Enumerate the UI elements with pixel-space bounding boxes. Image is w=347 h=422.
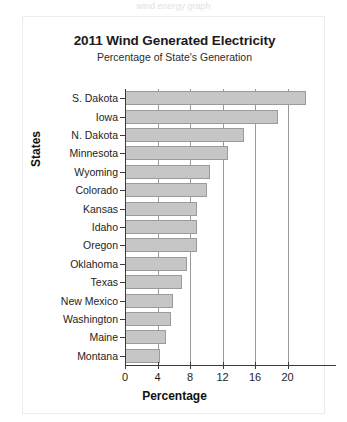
bar bbox=[125, 110, 278, 124]
bar bbox=[125, 220, 197, 234]
chart-title: 2011 Wind Generated Electricity bbox=[23, 33, 326, 48]
bar bbox=[125, 183, 207, 197]
chart-subtitle: Percentage of State's Generation bbox=[23, 51, 326, 63]
bar bbox=[125, 202, 197, 216]
x-axis-tick-label: 8 bbox=[187, 371, 193, 383]
x-axis-tick bbox=[158, 362, 159, 369]
bar bbox=[125, 257, 187, 271]
y-axis-title: States bbox=[29, 131, 43, 167]
bar bbox=[125, 275, 182, 289]
y-axis-tick-label: Colorado bbox=[75, 184, 118, 196]
x-axis-tick bbox=[288, 362, 289, 369]
bar bbox=[125, 238, 197, 252]
y-axis-tick-label: Montana bbox=[77, 350, 118, 362]
x-axis-tick-label: 0 bbox=[122, 371, 128, 383]
y-axis-tick-label: Wyoming bbox=[74, 166, 118, 178]
bar bbox=[125, 165, 210, 179]
chart-figure: 2011 Wind Generated Electricity Percenta… bbox=[22, 16, 325, 414]
y-axis-tick-label: Oregon bbox=[83, 239, 118, 251]
bar bbox=[125, 349, 160, 363]
cut-off-header-text: wind energy graph bbox=[0, 0, 347, 12]
bar bbox=[125, 91, 306, 105]
y-axis-tick-label: Idaho bbox=[92, 221, 118, 233]
x-axis-tick bbox=[125, 362, 126, 369]
x-axis-tick bbox=[255, 362, 256, 369]
y-axis-tick-label: S. Dakota bbox=[72, 92, 118, 104]
bar bbox=[125, 128, 244, 142]
bar bbox=[125, 146, 228, 160]
y-axis-tick-label: Washington bbox=[63, 313, 118, 325]
y-axis-tick-label: Minnesota bbox=[70, 147, 118, 159]
x-axis-title: Percentage bbox=[23, 389, 326, 403]
bar bbox=[125, 312, 171, 326]
x-axis-tick bbox=[190, 362, 191, 369]
bar bbox=[125, 330, 166, 344]
y-axis-tick-label: New Mexico bbox=[61, 295, 118, 307]
y-axis-tick-label: Oklahoma bbox=[70, 258, 118, 270]
x-axis-tick-label: 16 bbox=[249, 371, 261, 383]
x-axis-tick-label: 20 bbox=[281, 371, 293, 383]
y-axis-tick-label: Texas bbox=[91, 276, 118, 288]
bar-series: S. DakotaIowaN. DakotaMinnesotaWyomingCo… bbox=[125, 89, 316, 365]
y-axis-tick-label: N. Dakota bbox=[71, 129, 118, 141]
y-axis-tick-label: Iowa bbox=[96, 111, 118, 123]
bar bbox=[125, 294, 173, 308]
plot-area: S. DakotaIowaN. DakotaMinnesotaWyomingCo… bbox=[125, 89, 316, 365]
x-axis-tick-label: 12 bbox=[216, 371, 228, 383]
y-axis-line bbox=[125, 89, 126, 365]
x-axis-tick bbox=[223, 362, 224, 369]
y-axis-tick-label: Maine bbox=[89, 331, 118, 343]
y-axis-tick-label: Kansas bbox=[83, 203, 118, 215]
x-axis-tick-label: 4 bbox=[154, 371, 160, 383]
